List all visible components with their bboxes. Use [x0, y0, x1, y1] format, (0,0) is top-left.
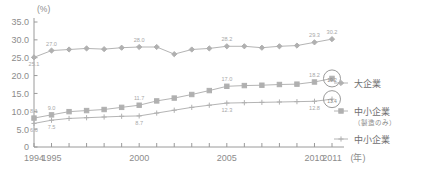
data-point	[294, 43, 299, 48]
data-point	[190, 92, 194, 96]
data-point	[277, 82, 281, 86]
data-label: 12.8	[309, 105, 320, 111]
data-point	[294, 99, 299, 104]
data-label: 25.1	[29, 61, 40, 67]
data-point	[259, 100, 264, 105]
data-point	[295, 82, 299, 86]
legend-label-2[interactable]: 中小企業	[354, 106, 390, 117]
y-axis-tick-label: 10.0	[11, 107, 29, 117]
data-point	[84, 46, 89, 51]
x-axis-tick-label: 2005	[217, 153, 237, 163]
data-point	[242, 44, 247, 49]
y-axis-tick-label: 5.0	[16, 125, 29, 135]
data-label: 17.0	[221, 76, 232, 82]
series-line-2	[34, 78, 332, 118]
data-label: 12.3	[221, 107, 232, 113]
y-axis-tick-label: 15.0	[11, 89, 29, 99]
data-point	[31, 55, 36, 60]
data-point	[66, 47, 71, 52]
data-point	[49, 113, 53, 117]
data-point	[49, 118, 54, 123]
data-point	[277, 99, 282, 104]
data-label: 8.7	[135, 120, 143, 126]
annotation-label: 19.2	[327, 77, 337, 83]
data-label: 29.3	[309, 32, 320, 38]
data-label: 18.2	[309, 72, 320, 78]
data-point	[32, 116, 36, 120]
y-axis-tick-label: 35.0	[11, 17, 29, 27]
data-point	[102, 107, 106, 111]
data-point	[312, 99, 317, 104]
data-point	[119, 114, 124, 119]
data-point	[137, 113, 142, 118]
data-point	[119, 45, 124, 50]
data-point	[102, 47, 107, 52]
data-point	[102, 114, 107, 119]
data-point	[189, 47, 194, 52]
x-axis-tick-label: 2011	[322, 153, 341, 163]
data-point	[225, 84, 229, 88]
data-label: 7.5	[48, 124, 56, 130]
data-point	[259, 45, 264, 50]
data-label: 28.2	[221, 36, 232, 42]
data-point	[172, 96, 176, 100]
data-point	[329, 37, 334, 42]
data-point	[137, 103, 141, 107]
data-point	[84, 108, 88, 112]
y-axis-tick-label: 0	[24, 142, 29, 152]
data-point	[224, 100, 229, 105]
data-point	[312, 40, 317, 45]
y-axis-tick-label: 25.0	[11, 53, 29, 63]
y-axis-unit-label: (%)	[37, 4, 50, 14]
x-axis-tick-label: 1995	[42, 153, 62, 163]
data-point	[172, 52, 177, 57]
data-label: 27.0	[46, 41, 57, 47]
data-point	[277, 44, 282, 49]
data-point	[66, 116, 71, 121]
data-point	[242, 83, 246, 87]
x-axis-unit-label: (年)	[351, 152, 366, 163]
annotation-label: 13.4	[327, 98, 337, 104]
data-point	[154, 110, 159, 115]
legend-sublabel-2: （製造のみ）	[354, 118, 396, 127]
series-line-1	[34, 39, 332, 57]
legend-marker-1	[338, 80, 343, 85]
data-point	[260, 83, 264, 87]
data-point	[119, 105, 123, 109]
data-point	[207, 103, 212, 108]
data-label: 28.0	[134, 37, 145, 43]
data-point	[189, 105, 194, 110]
x-axis-tick-label: 2000	[129, 153, 149, 163]
data-point	[224, 44, 229, 49]
data-label: 6.6	[30, 127, 38, 133]
legend-marker-3	[338, 136, 343, 141]
legend-label-3[interactable]: 中小企業	[354, 134, 390, 145]
legend-label-1[interactable]: 大企業	[354, 78, 381, 89]
data-point	[137, 44, 142, 49]
data-point	[172, 108, 177, 113]
data-label: 30.2	[327, 29, 338, 35]
legend-marker-2	[339, 109, 343, 113]
y-axis-tick-label: 30.0	[11, 35, 29, 45]
data-point	[207, 46, 212, 51]
data-point	[312, 80, 316, 84]
data-label: 8.1	[30, 108, 38, 114]
data-point	[242, 100, 247, 105]
data-point	[67, 109, 71, 113]
data-label: 9.0	[48, 105, 56, 111]
data-point	[31, 121, 36, 126]
chart-container: 05.010.015.020.025.030.035.0(%)199419952…	[0, 0, 421, 171]
data-point	[155, 99, 159, 103]
data-label: 11.7	[134, 95, 144, 101]
line-chart: 05.010.015.020.025.030.035.0(%)199419952…	[0, 0, 421, 171]
data-point	[207, 88, 211, 92]
y-axis-tick-label: 20.0	[11, 71, 29, 81]
data-point	[49, 48, 54, 53]
data-point	[84, 115, 89, 120]
data-point	[154, 44, 159, 49]
